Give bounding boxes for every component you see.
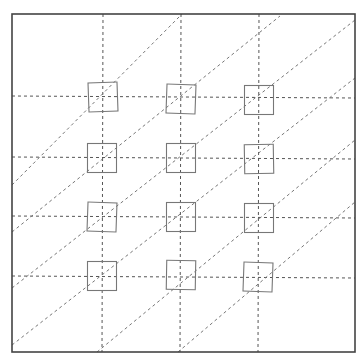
square-marker bbox=[245, 204, 274, 233]
diagonal-dashed-line bbox=[12, 20, 355, 288]
outer-frame bbox=[12, 14, 355, 352]
square-markers bbox=[87, 82, 274, 292]
grid-diagram bbox=[0, 0, 357, 353]
diagonal-dashed-line bbox=[12, 14, 182, 185]
horizontal-dashed-line bbox=[12, 96, 355, 98]
horizontal-grid-lines bbox=[12, 96, 355, 278]
vertical-dashed-line bbox=[180, 14, 181, 352]
diagonal-dashed-line bbox=[12, 78, 355, 345]
vertical-dashed-line bbox=[258, 14, 259, 352]
vertical-grid-lines bbox=[102, 14, 259, 352]
vertical-dashed-line bbox=[102, 14, 103, 352]
horizontal-dashed-line bbox=[12, 157, 355, 159]
diagonal-lines bbox=[12, 14, 355, 352]
diagonal-dashed-line bbox=[12, 16, 280, 232]
diagonal-dashed-line bbox=[97, 140, 355, 352]
horizontal-dashed-line bbox=[12, 216, 355, 218]
horizontal-dashed-line bbox=[12, 276, 355, 278]
